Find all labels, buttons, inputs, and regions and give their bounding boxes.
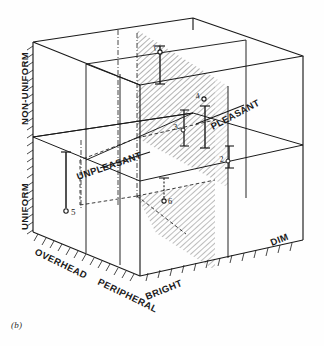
data-point-5: 5 (61, 152, 76, 217)
axis-label-non-uniform: NON-UNIFORM (19, 52, 30, 125)
hatched-planes (137, 30, 228, 270)
right-bottom-axis-ticks (146, 243, 292, 281)
dash-lower-diagonal (80, 196, 137, 205)
hatched-plane-right-face (215, 78, 228, 188)
dash-dot-vertical-guides (81, 30, 137, 208)
figure-3d-cube: 1 4 3 2 5 (0, 0, 324, 346)
marker-3 (181, 128, 185, 132)
axis-label-bright: BRIGHT (144, 277, 184, 302)
marker-4 (202, 97, 206, 101)
marker-1 (158, 50, 162, 54)
marker-5 (64, 209, 68, 213)
plane-label-unpleasant: UNPLEASANT (75, 149, 143, 182)
point-label-5: 5 (71, 207, 76, 217)
marker-2 (226, 159, 230, 163)
point-label-6: 6 (168, 196, 172, 206)
hatched-plane-lower (137, 180, 215, 270)
figure-caption: (b) (11, 320, 22, 330)
marker-6 (162, 199, 166, 203)
axis-label-uniform: UNIFORM (19, 183, 30, 230)
partition-inner-box-top (86, 64, 140, 85)
cube-diagram-canvas: 1 4 3 2 5 (0, 0, 324, 346)
hatched-plane-upper (137, 30, 215, 180)
